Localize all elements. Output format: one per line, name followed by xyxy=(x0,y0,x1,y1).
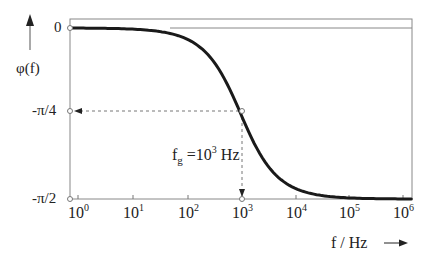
x-tick-label: 100 xyxy=(68,205,89,221)
marker-fg-point xyxy=(240,109,245,114)
x-tick-label: 105 xyxy=(339,205,360,221)
y-tick-label-pi2: -π/2 xyxy=(32,191,56,206)
marker-fg-axis xyxy=(240,197,245,202)
fg-unit: Hz xyxy=(217,146,240,163)
x-tick-label: 102 xyxy=(178,205,199,221)
fg-subscript: g xyxy=(177,154,183,166)
x-tick-label: 104 xyxy=(286,205,307,221)
y-tick-label-zero: 0 xyxy=(54,20,62,35)
arrow-up-icon xyxy=(26,14,34,26)
x-axis-label: f / Hz xyxy=(331,235,367,251)
arrowhead-left-icon xyxy=(74,108,82,114)
x-tick-label: 103 xyxy=(232,205,253,221)
fg-exponent: 3 xyxy=(212,144,217,155)
marker-y-pi4 xyxy=(68,109,73,114)
marker-y-pi2 xyxy=(68,197,73,202)
arrow-right-icon xyxy=(399,240,408,247)
x-tick-label: 101 xyxy=(123,205,144,221)
arrowhead-down-icon xyxy=(239,189,245,197)
y-tick-label-pi4: -π/4 xyxy=(32,103,56,118)
marker-y-zero xyxy=(68,26,73,31)
fg-equals: =10 xyxy=(183,146,212,163)
x-tick-label: 106 xyxy=(393,205,414,221)
fg-annotation: fg =103 Hz xyxy=(172,147,240,163)
y-axis-label: φ(f) xyxy=(16,61,40,76)
